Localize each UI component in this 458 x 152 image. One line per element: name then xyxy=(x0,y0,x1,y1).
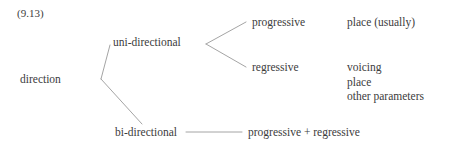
node-direction: direction xyxy=(20,74,61,86)
node-progressive: progressive xyxy=(252,17,305,29)
annotation-regressive-place: place xyxy=(347,77,424,89)
node-progressive-plus-regressive: progressive + regressive xyxy=(248,127,360,139)
edge-uni-to-regressive xyxy=(206,44,246,67)
node-uni-directional: uni-directional xyxy=(113,37,181,49)
node-regressive: regressive xyxy=(252,62,299,74)
annotation-regressive-voicing: voicing xyxy=(347,62,424,74)
edge-direction-to-uni-directional xyxy=(101,45,110,79)
node-bi-directional: bi-directional xyxy=(115,127,177,139)
annotation-progressive-place: place (usually) xyxy=(347,17,415,29)
diagram-canvas: (9.13) direction uni-directional bi-dire… xyxy=(0,0,458,152)
edge-direction-to-bi-directional xyxy=(101,79,142,124)
edge-uni-to-progressive xyxy=(206,22,246,44)
annotation-regressive-list: voicing place other parameters xyxy=(347,62,424,103)
annotation-regressive-other-parameters: other parameters xyxy=(347,91,424,103)
